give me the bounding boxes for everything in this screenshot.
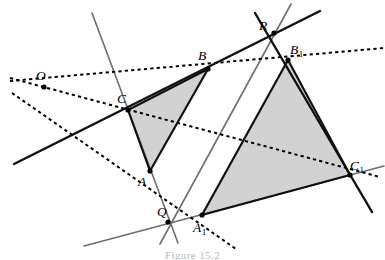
point-marker-o — [41, 84, 46, 89]
point-label-c1: C1 — [350, 158, 364, 175]
point-label-a1: A1 — [192, 220, 206, 237]
point-marker-a — [147, 168, 152, 173]
figure-canvas: OQRABCA1B1C1 — [0, 0, 385, 260]
point-marker-r — [271, 30, 276, 35]
geometry-figure: OQRABCA1B1C1 Figure 15.2 — [0, 0, 385, 260]
point-label-r: R — [258, 18, 268, 33]
point-marker-b1 — [285, 57, 290, 62]
figure-caption: Figure 15.2 — [0, 249, 385, 260]
point-marker-c — [125, 107, 130, 112]
point-label-q: Q — [157, 204, 167, 219]
point-marker-q — [165, 219, 170, 224]
point-marker-a1 — [199, 212, 204, 217]
dotted-line-o-a-a1 — [12, 93, 236, 249]
point-label-c: C — [117, 91, 127, 106]
point-label-a: A — [137, 174, 147, 189]
point-label-o: O — [36, 68, 46, 83]
point-label-b1: B1 — [290, 42, 303, 59]
gray-construction-lines — [84, 4, 384, 246]
point-marker-c1 — [347, 172, 352, 177]
point-marker-b — [205, 66, 210, 71]
triangle-abc-shading — [128, 69, 208, 171]
point-label-b: B — [198, 48, 206, 63]
